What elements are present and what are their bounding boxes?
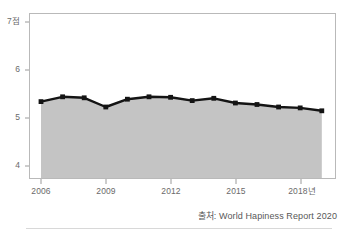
x-axis-ticks (41, 179, 301, 184)
source-attribution: 출처: World Hapiness Report 2020 (198, 209, 337, 222)
x-tick-label-2006: 2006 (21, 187, 61, 196)
y-axis-ticks (25, 22, 29, 166)
y-tick-label-7: 7점 (0, 17, 20, 26)
chart-figure: 7점 6 5 4 2006 2009 2012 2015 2018년 출처: W… (0, 0, 348, 247)
x-tick-label-2009: 2009 (86, 187, 126, 196)
y-tick-label-4: 4 (0, 161, 20, 170)
x-tick-label-2012: 2012 (151, 187, 191, 196)
y-tick-label-5: 5 (0, 113, 20, 122)
y-tick-label-6: 6 (0, 65, 20, 74)
x-tick-label-2018: 2018년 (279, 187, 325, 196)
x-tick-label-2015: 2015 (216, 187, 256, 196)
bottom-divider (26, 228, 332, 229)
